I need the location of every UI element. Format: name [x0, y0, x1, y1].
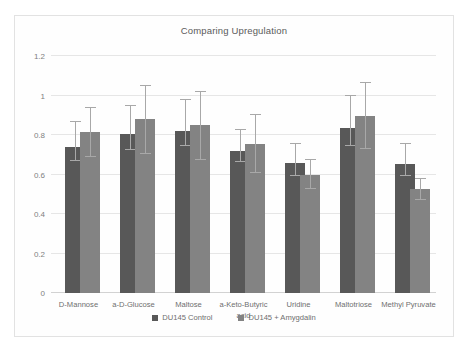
error-bar	[240, 130, 241, 162]
error-bar	[145, 86, 146, 154]
legend-label: DU145 + Amygdalin	[248, 313, 315, 322]
bar-group: D-Mannose	[51, 56, 106, 293]
bar-groups: D-Mannosea-D-GlucoseMaltosea-Keto-Butyri…	[51, 56, 436, 293]
bar[interactable]	[300, 175, 320, 294]
error-cap-bottom	[250, 172, 261, 173]
error-cap-bottom	[125, 149, 136, 150]
x-axis-tick-label: Maltose	[158, 300, 220, 311]
chart-card: Comparing Upregulation 00.20.40.60.811.2…	[14, 15, 454, 337]
y-axis-tick-label: 0.6	[34, 170, 45, 179]
error-bar	[90, 108, 91, 156]
error-cap-top	[140, 85, 151, 86]
error-bar	[420, 179, 421, 200]
error-cap-bottom	[140, 153, 151, 154]
error-cap-bottom	[290, 175, 301, 176]
bar-group: a-Keto-Butyric acid	[216, 56, 271, 293]
bar-column[interactable]	[355, 56, 375, 293]
x-axis-tick-label: D-Mannose	[48, 300, 110, 311]
y-axis-tick-label: 0.4	[34, 210, 45, 219]
y-axis-tick-label: 0	[41, 289, 45, 298]
error-cap-top	[360, 82, 371, 83]
bar-column[interactable]	[300, 56, 320, 293]
error-cap-bottom	[235, 161, 246, 162]
bar-column[interactable]	[410, 56, 430, 293]
chart-legend: DU145 ControlDU145 + Amygdalin	[15, 313, 453, 322]
error-bar	[405, 144, 406, 176]
error-cap-top	[250, 114, 261, 115]
bar-column[interactable]	[245, 56, 265, 293]
bar-column[interactable]	[190, 56, 210, 293]
legend-swatch-icon	[152, 315, 158, 321]
x-axis-tick-label: a-D-Glucose	[103, 300, 165, 311]
legend-label: DU145 Control	[162, 313, 212, 322]
bar-group: Maltose	[161, 56, 216, 293]
error-bar	[185, 100, 186, 145]
error-cap-top	[85, 107, 96, 108]
bar-group: Maltotriose	[326, 56, 381, 293]
error-cap-bottom	[180, 145, 191, 146]
error-bar	[255, 115, 256, 172]
legend-swatch-icon	[238, 315, 244, 321]
error-bar	[130, 106, 131, 149]
error-cap-top	[180, 99, 191, 100]
error-cap-bottom	[400, 175, 411, 176]
bar[interactable]	[410, 189, 430, 293]
error-cap-bottom	[305, 188, 316, 189]
plot-area: 00.20.40.60.811.2 D-Mannosea-D-GlucoseMa…	[51, 56, 436, 293]
error-bar	[310, 160, 311, 190]
error-bar	[365, 83, 366, 149]
x-axis-tick-label: Methyl Pyruvate	[378, 300, 440, 311]
error-cap-top	[290, 143, 301, 144]
error-cap-bottom	[70, 160, 81, 161]
error-bar	[350, 96, 351, 146]
error-cap-top	[235, 129, 246, 130]
y-axis-tick-label: 1	[41, 91, 45, 100]
error-cap-bottom	[415, 199, 426, 200]
bar-column[interactable]	[135, 56, 155, 293]
legend-item[interactable]: DU145 + Amygdalin	[238, 313, 315, 322]
legend-item[interactable]: DU145 Control	[152, 313, 212, 322]
bar-group: a-D-Glucose	[106, 56, 161, 293]
error-cap-top	[400, 143, 411, 144]
chart-title: Comparing Upregulation	[15, 25, 453, 36]
error-cap-bottom	[85, 156, 96, 157]
error-cap-top	[305, 159, 316, 160]
error-bar	[200, 92, 201, 160]
bar-column[interactable]	[80, 56, 100, 293]
x-axis-tick-label: Maltotriose	[323, 300, 385, 311]
error-bar	[295, 144, 296, 176]
error-cap-top	[70, 121, 81, 122]
x-axis-tick-label: Uridine	[268, 300, 330, 311]
error-cap-top	[125, 105, 136, 106]
y-axis-tick-label: 1.2	[34, 52, 45, 61]
error-cap-top	[345, 95, 356, 96]
error-bar	[75, 122, 76, 161]
error-cap-bottom	[345, 145, 356, 146]
bar-group: Methyl Pyruvate	[381, 56, 436, 293]
bar-group: Uridine	[271, 56, 326, 293]
y-axis-tick-label: 0.2	[34, 249, 45, 258]
error-cap-bottom	[195, 159, 206, 160]
error-cap-top	[415, 178, 426, 179]
y-axis-tick-label: 0.8	[34, 131, 45, 140]
error-cap-bottom	[360, 148, 371, 149]
error-cap-top	[195, 91, 206, 92]
